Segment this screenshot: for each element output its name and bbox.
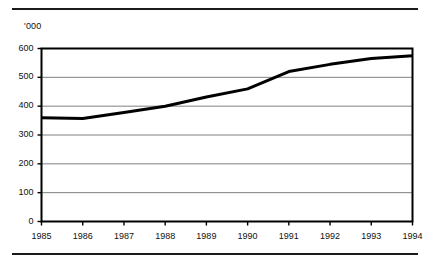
x-axis-tick-label: 1994 [396,231,430,241]
y-axis-tick-label: 600 [4,43,34,53]
x-axis-tick-label: 1989 [189,231,223,241]
data-line-series [42,56,413,119]
x-axis-tick-label: 1987 [107,231,141,241]
y-axis-tick-label: 0 [4,216,34,226]
x-axis-tick-label: 1992 [313,231,347,241]
x-axis-tick-label: 1993 [354,231,388,241]
x-axis-tick-label: 1985 [25,231,59,241]
y-axis-tick-label: 500 [4,71,34,81]
chart-figure: '000 01002003004005006001985198619871988… [0,0,433,264]
y-axis-tick-label: 100 [4,187,34,197]
line-chart: 0100200300400500600198519861987198819891… [0,0,433,264]
x-axis-tick-label: 1986 [66,231,100,241]
y-axis-tick-label: 400 [4,100,34,110]
x-axis-tick-label: 1991 [272,231,306,241]
y-axis-tick-label: 200 [4,158,34,168]
bottom-rule [12,253,418,255]
y-axis-tick-label: 300 [4,129,34,139]
x-axis-tick-label: 1988 [148,231,182,241]
x-axis-tick-label: 1990 [231,231,265,241]
plot-svg [0,0,433,264]
